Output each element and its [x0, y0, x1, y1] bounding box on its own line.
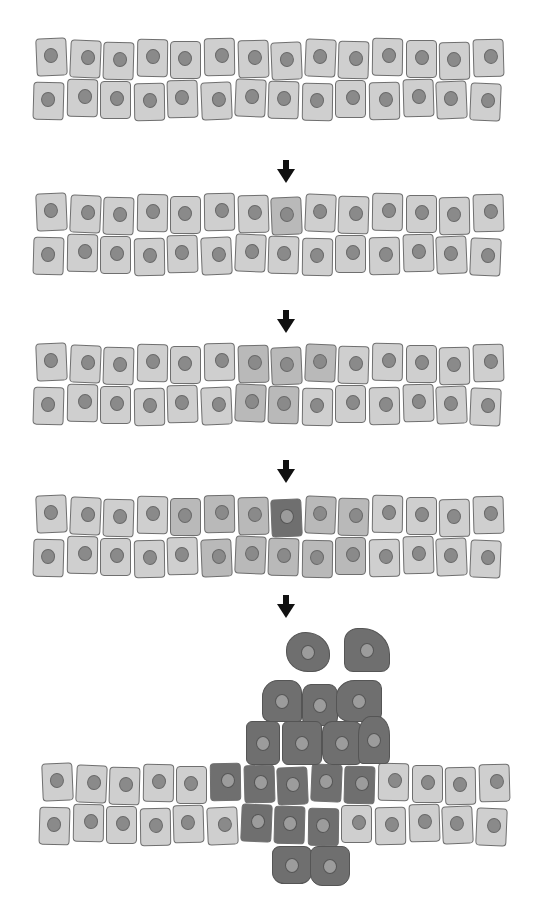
nucleus [80, 50, 95, 66]
normal-cell [435, 385, 468, 424]
normal-cell [35, 37, 68, 76]
normal-cell [402, 536, 434, 575]
normal-cell [103, 42, 135, 81]
nucleus [346, 245, 360, 260]
nucleus [313, 698, 327, 713]
nucleus [313, 49, 328, 65]
nucleus [215, 48, 229, 63]
normal-cell [170, 346, 201, 384]
nucleus [481, 398, 496, 414]
normal-cell [302, 388, 334, 426]
normal-cell [32, 82, 64, 121]
normal-cell [378, 763, 410, 801]
normal-cell [173, 805, 205, 844]
normal-cell [412, 765, 443, 803]
nucleus [421, 775, 435, 790]
altered-cell [268, 386, 300, 425]
normal-cell [406, 195, 437, 233]
nucleus [41, 247, 55, 262]
nucleus [253, 775, 267, 790]
nucleus [484, 49, 498, 64]
normal-cell [237, 40, 269, 79]
invading-tumor-cell [310, 846, 350, 886]
nucleus [382, 48, 396, 63]
normal-cell [66, 79, 98, 117]
nucleus [444, 396, 459, 412]
normal-cell [66, 536, 98, 574]
normal-cell [234, 78, 267, 117]
altered-cell [302, 540, 334, 578]
nucleus [277, 91, 291, 106]
tumor-cell [310, 763, 343, 802]
normal-cell [469, 237, 502, 276]
normal-cell [270, 41, 303, 80]
nucleus [484, 506, 498, 521]
nucleus [110, 91, 124, 106]
nucleus [283, 816, 297, 831]
normal-cell [206, 806, 239, 845]
normal-cell [32, 539, 64, 578]
nucleus [244, 394, 259, 410]
nucleus [119, 777, 133, 792]
nucleus [78, 394, 92, 409]
normal-cell [445, 767, 477, 805]
normal-cell [66, 384, 98, 422]
nucleus [47, 817, 61, 832]
nucleus [143, 93, 157, 108]
nucleus [444, 91, 459, 107]
normal-cell [134, 540, 166, 578]
nucleus [212, 397, 227, 413]
nucleus [212, 247, 227, 263]
normal-cell [441, 805, 474, 844]
invading-tumor-cell [286, 632, 330, 672]
nucleus [44, 48, 59, 64]
nucleus [346, 547, 360, 562]
nucleus [313, 354, 328, 370]
normal-cell [100, 538, 131, 576]
nucleus [349, 356, 363, 371]
nucleus [411, 546, 425, 561]
nucleus [244, 244, 259, 260]
nucleus [484, 204, 498, 219]
normal-cell [134, 83, 166, 121]
nucleus [86, 775, 101, 791]
altered-cell [237, 497, 269, 536]
nucleus [382, 353, 396, 368]
nucleus [275, 694, 289, 709]
nucleus [247, 50, 261, 65]
nucleus [360, 643, 374, 658]
invading-tumor-cell [262, 680, 302, 722]
nucleus [116, 816, 130, 831]
altered-cell [335, 537, 366, 575]
tumor-cell [308, 808, 340, 846]
normal-cell [372, 343, 404, 381]
normal-cell [304, 193, 337, 232]
normal-cell [439, 347, 471, 385]
nucleus [355, 776, 369, 791]
normal-cell [109, 767, 141, 806]
nucleus [41, 92, 55, 107]
nucleus [352, 815, 366, 830]
nucleus [379, 247, 393, 262]
nucleus [379, 92, 393, 107]
normal-cell [372, 38, 404, 76]
altered-cell [204, 495, 236, 533]
normal-cell [35, 192, 68, 231]
nucleus [415, 205, 429, 220]
nucleus [346, 90, 360, 105]
nucleus [181, 815, 195, 830]
nucleus [80, 205, 95, 221]
tumor-cell [243, 765, 275, 804]
nucleus [44, 505, 59, 521]
nucleus [247, 507, 261, 522]
nucleus [349, 508, 363, 523]
normal-cell [408, 804, 440, 843]
normal-cell [439, 197, 471, 235]
nucleus [280, 52, 295, 68]
normal-cell [103, 197, 135, 236]
normal-cell [41, 762, 74, 801]
nucleus [212, 549, 227, 565]
nucleus [316, 818, 330, 833]
nucleus [352, 694, 366, 709]
nucleus [313, 506, 328, 522]
